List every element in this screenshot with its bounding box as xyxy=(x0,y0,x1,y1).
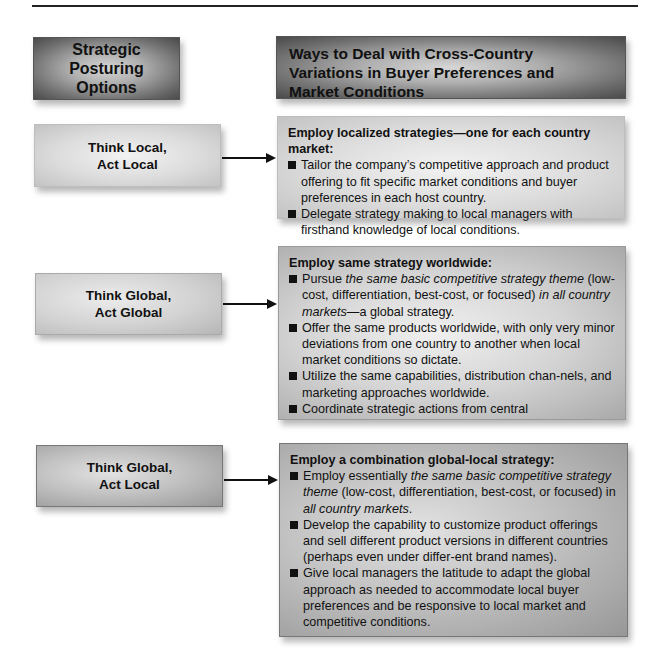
strategy-box-global: Employ same strategy worldwide: Pursue t… xyxy=(278,246,626,420)
option-think-global-act-global: Think Global, Act Global xyxy=(35,273,222,335)
bullet-text: Delegate strategy making to local manage… xyxy=(301,207,573,237)
bullet-text: Coordinate strategic actions from centra… xyxy=(302,402,528,416)
option-label-line1: Think Global, xyxy=(86,287,172,304)
strategy-bullet: Utilize the same capabilities, distribut… xyxy=(289,368,615,400)
strategy-bullet: Offer the same products worldwide, with … xyxy=(289,320,615,369)
square-bullet-icon xyxy=(289,324,297,332)
bullet-text: Develop the capability to customize prod… xyxy=(303,518,608,564)
bullet-text: Give local managers the latitude to adap… xyxy=(303,566,590,629)
option-label-line2: Act Local xyxy=(88,156,167,173)
square-bullet-icon xyxy=(288,210,296,218)
bullet-text: (low-cost, differentiation, best-cost, o… xyxy=(338,485,616,499)
square-bullet-icon xyxy=(288,161,296,169)
bullet-text: Tailor the company’s competitive approac… xyxy=(301,158,609,204)
strategy-lead: Employ localized strategies—one for each… xyxy=(288,125,614,157)
header-posturing-options: Strategic Posturing Options xyxy=(33,37,180,100)
square-bullet-icon xyxy=(290,569,298,577)
header-posturing-options-text: Strategic Posturing Options xyxy=(47,40,167,97)
option-label-line2: Act Global xyxy=(86,304,172,321)
strategy-bullet: Employ essentially the same basic compet… xyxy=(290,468,617,517)
strategy-bullet: Give local managers the latitude to adap… xyxy=(290,565,617,630)
top-rule xyxy=(32,5,638,7)
emphasis-text: all country markets xyxy=(303,502,409,516)
strategy-bullet: Pursue the same basic competitive strate… xyxy=(289,271,615,320)
option-label-line1: Think Local, xyxy=(88,139,167,156)
strategy-lead: Employ a combination global-local strate… xyxy=(290,452,617,468)
strategy-bullet: Coordinate strategic actions from centra… xyxy=(289,401,615,417)
strategy-lead: Employ same strategy worldwide: xyxy=(289,255,615,271)
option-label-line1: Think Global, xyxy=(87,459,173,476)
emphasis-text: the same basic competitive strategy them… xyxy=(345,272,584,286)
option-think-global-act-local: Think Global, Act Local xyxy=(36,445,223,507)
option-label-line2: Act Local xyxy=(87,476,173,493)
header-ways-to-deal-text: Ways to Deal with Cross-Country Variatio… xyxy=(289,44,589,101)
arrow-right-icon xyxy=(222,157,274,159)
square-bullet-icon xyxy=(289,372,297,380)
bullet-text: Utilize the same capabilities, distribut… xyxy=(302,369,611,399)
strategy-bullets: Pursue the same basic competitive strate… xyxy=(289,271,615,417)
strategy-bullet: Develop the capability to customize prod… xyxy=(290,517,617,566)
strategy-box-localized: Employ localized strategies—one for each… xyxy=(277,116,625,219)
square-bullet-icon xyxy=(290,472,298,480)
strategy-bullets: Employ essentially the same basic compet… xyxy=(290,468,617,630)
bullet-text: . xyxy=(409,502,413,516)
arrow-right-icon xyxy=(223,303,275,305)
square-bullet-icon xyxy=(290,521,298,529)
strategy-bullets: Tailor the company’s competitive approac… xyxy=(288,157,614,238)
strategy-box-global-local: Employ a combination global-local strate… xyxy=(279,443,628,637)
strategy-bullet: Delegate strategy making to local manage… xyxy=(288,206,614,238)
arrow-right-icon xyxy=(224,479,276,481)
option-think-local-act-local: Think Local, Act Local xyxy=(34,124,221,187)
square-bullet-icon xyxy=(289,405,297,413)
header-ways-to-deal: Ways to Deal with Cross-Country Variatio… xyxy=(276,36,626,99)
bullet-text: —a global strategy. xyxy=(347,305,455,319)
strategy-bullet: Tailor the company’s competitive approac… xyxy=(288,157,614,206)
square-bullet-icon xyxy=(289,275,297,283)
bullet-text: Offer the same products worldwide, with … xyxy=(302,321,615,367)
bullet-text: Employ essentially xyxy=(303,469,411,483)
bullet-text: Pursue xyxy=(302,272,345,286)
